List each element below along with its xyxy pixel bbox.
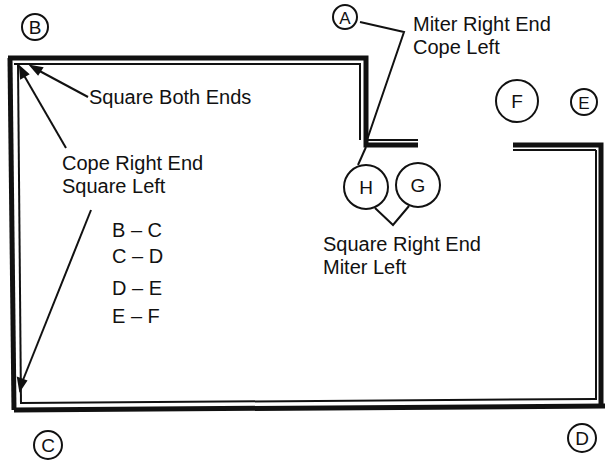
segment-list: B – C C – D D – E E – F <box>112 219 163 327</box>
label-square-left: Square Left <box>62 175 166 197</box>
point-g: G <box>396 163 440 207</box>
svg-text:D: D <box>575 428 589 449</box>
svg-text:E: E <box>578 94 589 113</box>
label-square-both-ends: Square Both Ends <box>89 86 251 108</box>
svg-text:G: G <box>411 175 426 196</box>
wall-bottom <box>14 406 605 410</box>
trim-diagram: B A F E H G C D Squa <box>0 0 605 465</box>
label-cope-left: Cope Left <box>413 36 500 58</box>
wall-right <box>513 145 601 406</box>
point-b: B <box>22 14 48 40</box>
svg-text:H: H <box>359 177 373 198</box>
leaders <box>18 22 409 390</box>
label-square-right-end: Square Right End <box>323 233 481 255</box>
svg-text:C: C <box>41 435 55 456</box>
label-cope-right-end: Cope Right End <box>62 152 203 174</box>
svg-text:B: B <box>29 17 42 38</box>
arrow-head-icon <box>31 66 42 74</box>
segment-item: B – C <box>112 219 162 241</box>
point-c: C <box>34 431 62 459</box>
arrow-head-icon <box>20 67 28 78</box>
point-h: H <box>344 165 388 209</box>
label-miter-right-end: Miter Right End <box>413 13 551 35</box>
point-e: E <box>571 89 597 115</box>
segment-item: D – E <box>112 277 162 299</box>
label-miter-left: Miter Left <box>323 256 407 278</box>
segment-item: C – D <box>112 245 163 267</box>
segment-item: E – F <box>112 305 160 327</box>
point-f: F <box>496 80 538 122</box>
point-d: D <box>568 424 596 452</box>
point-markers: B A F E H G C D <box>22 5 597 459</box>
point-a: A <box>333 5 357 29</box>
wall-left <box>10 58 14 410</box>
svg-text:F: F <box>511 91 523 112</box>
svg-text:A: A <box>339 9 351 28</box>
arrow-head-icon <box>18 378 26 390</box>
